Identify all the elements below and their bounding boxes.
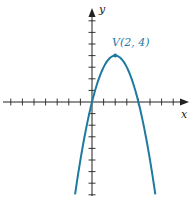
x-axis-label: x bbox=[181, 108, 188, 121]
vertex-point bbox=[113, 54, 117, 58]
parabola-curve bbox=[75, 56, 155, 195]
parabola-graph: V(2, 4) x y bbox=[0, 0, 191, 200]
x-axis-arrow-icon bbox=[180, 99, 189, 106]
axes bbox=[3, 8, 189, 196]
vertex-label: V(2, 4) bbox=[112, 36, 150, 49]
y-axis-label: y bbox=[98, 3, 106, 16]
y-axis-arrow-icon bbox=[89, 8, 96, 17]
